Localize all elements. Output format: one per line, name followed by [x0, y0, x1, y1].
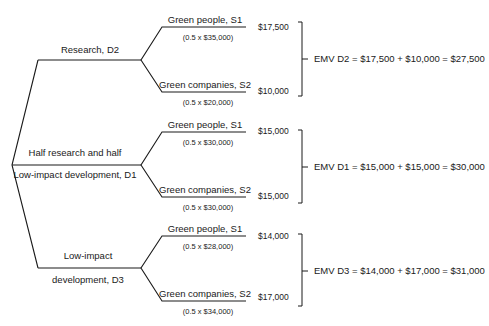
state-calc-d3-s1: (0.5 x $28,000)	[183, 242, 234, 251]
state-calc-d2-s1: (0.5 x $35,000)	[183, 33, 234, 42]
payoff-d2-s2: $10,000	[258, 86, 289, 96]
decision-label-d2: Research, D2	[61, 44, 119, 55]
state-label-d2-s1: Green people, S1	[168, 14, 242, 25]
root-branches	[12, 60, 141, 268]
payoff-d1-s2: $15,000	[258, 191, 289, 201]
state-calc-d3-s2: (0.5 x $34,000)	[183, 307, 234, 316]
payoff-d3-s2: $17,000	[258, 292, 289, 302]
bracket-d1	[298, 130, 302, 203]
state-calc-d1-s2: (0.5 x $30,000)	[183, 203, 234, 212]
state-calc-d1-s1: (0.5 x $30,000)	[183, 138, 234, 147]
decision-label-d3-line1: Low-impact	[64, 250, 113, 261]
decision-tree: Research, D2 Green people, S1 (0.5 x $35…	[0, 0, 489, 326]
state-calc-d2-s2: (0.5 x $20,000)	[183, 98, 234, 107]
emv-d2: EMV D2 = $17,500 + $10,000 = $27,500	[314, 53, 485, 64]
payoff-d1-s1: $15,000	[258, 126, 289, 136]
state-label-d2-s2: Green companies, S2	[159, 79, 251, 90]
decision-label-d1-line1: Half research and half	[29, 147, 122, 158]
emv-d1: EMV D1 = $15,000 + $15,000 = $30,000	[314, 161, 485, 172]
state-label-d1-s2: Green companies, S2	[159, 184, 251, 195]
state-label-d1-s1: Green people, S1	[168, 119, 242, 130]
state-label-d3-s2: Green companies, S2	[159, 288, 251, 299]
payoff-d2-s1: $17,500	[258, 22, 289, 32]
state-label-d3-s1: Green people, S1	[168, 223, 242, 234]
payoff-d3-s1: $14,000	[258, 231, 289, 241]
decision-label-d3-line2: development, D3	[52, 274, 124, 285]
decision-label-d1-line2: Low-impact development, D1	[13, 169, 136, 180]
bracket-d3	[298, 234, 302, 306]
bracket-d2	[298, 22, 302, 96]
emv-d3: EMV D3 = $14,000 + $17,000 = $31,000	[314, 265, 485, 276]
decision-branch-d3: Low-impact development, D3 Green people,…	[52, 223, 485, 316]
